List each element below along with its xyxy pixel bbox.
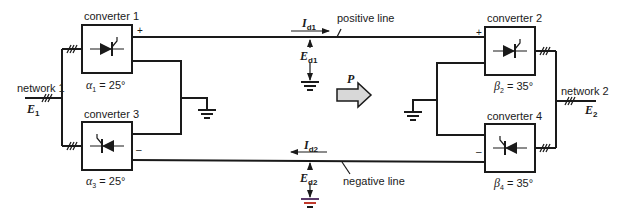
label-leader xyxy=(342,162,350,174)
current-id1: Id1 xyxy=(302,17,316,32)
network2-label: network 2 xyxy=(561,86,609,97)
converter2-label: converter 2 xyxy=(487,13,542,24)
power-flow-arrow-icon xyxy=(337,83,371,107)
converter1-label: converter 1 xyxy=(84,11,139,22)
network1-label: network 1 xyxy=(17,83,65,94)
network1-emf: E1 xyxy=(27,103,39,118)
network1-bus xyxy=(25,45,82,150)
network2-bus xyxy=(535,47,596,152)
three-phase-mark-icon xyxy=(540,47,575,152)
converter1-polarity: + xyxy=(137,26,143,36)
left-neutral-connection xyxy=(132,61,207,134)
current-id2: Id2 xyxy=(304,139,318,154)
positive-line-label: positive line xyxy=(337,13,394,24)
negative-line xyxy=(132,160,485,162)
negative-line-label: negative line xyxy=(343,176,405,187)
ground-icon xyxy=(301,82,319,90)
ground-icon xyxy=(404,112,422,120)
ground-icon xyxy=(198,110,216,118)
label-leader xyxy=(337,29,341,37)
converter3-angle: α3 = 25° xyxy=(86,175,125,189)
ground-icon xyxy=(301,199,319,207)
converter2-angle: β2 = 35° xyxy=(494,80,533,94)
converter4-angle: β4 = 35° xyxy=(494,177,533,191)
converter4-label: converter 4 xyxy=(487,111,542,122)
converter1-angle: α1 = 25° xyxy=(86,79,125,93)
right-neutral-connection xyxy=(413,63,485,135)
converter3-label: converter 3 xyxy=(84,109,139,120)
power-flow-label: P xyxy=(347,73,354,85)
network2-emf: E2 xyxy=(585,104,597,119)
voltage-ed2: Ed2 xyxy=(300,172,317,187)
converter2-polarity: + xyxy=(476,28,482,38)
converter3-polarity: – xyxy=(136,145,142,155)
voltage-ed1: Ed1 xyxy=(300,50,317,65)
hvdc-diagram: + + – – converter 1 converter 2 converte… xyxy=(0,0,620,223)
converter4-polarity: – xyxy=(476,147,482,157)
